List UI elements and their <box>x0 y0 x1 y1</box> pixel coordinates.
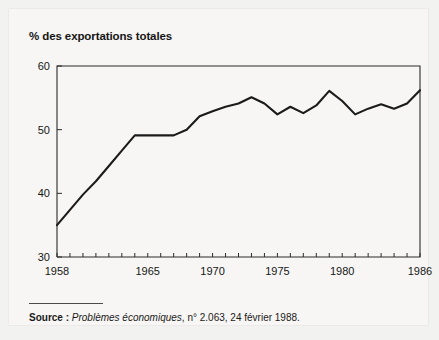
x-tick-label: 1980 <box>330 265 354 277</box>
source-label: Source : <box>29 312 69 323</box>
y-tick-label: 60 <box>38 60 50 72</box>
y-tick-label: 40 <box>38 187 50 199</box>
scanned-page: % des exportations totales 30405060 1958… <box>0 0 439 340</box>
source-divider <box>29 303 103 304</box>
x-tick-label: 1975 <box>265 265 289 277</box>
x-tick-label: 1986 <box>408 265 432 277</box>
data-series-line <box>57 90 420 225</box>
figure-card: % des exportations totales 30405060 1958… <box>9 9 428 325</box>
x-axis-tick-labels: 195819651970197519801986 <box>45 265 432 277</box>
y-tick-label: 30 <box>38 251 50 263</box>
chart-plot-area: 30405060 195819651970197519801986 <box>18 18 439 288</box>
source-publication: Problèmes économiques <box>72 312 182 323</box>
x-tick-label: 1965 <box>136 265 160 277</box>
line-chart: 30405060 195819651970197519801986 <box>18 18 439 288</box>
source-reference: , n° 2.063, 24 février 1988. <box>182 312 300 323</box>
x-tick-label: 1970 <box>200 265 224 277</box>
y-axis-tick-labels: 30405060 <box>38 60 50 263</box>
y-tick-label: 50 <box>38 124 50 136</box>
source-note: Source : Problèmes économiques, n° 2.063… <box>29 312 300 323</box>
x-tick-label: 1958 <box>45 265 69 277</box>
